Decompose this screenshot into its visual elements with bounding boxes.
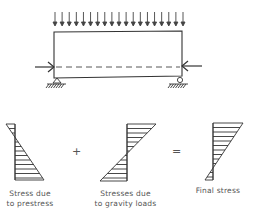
- pin-support-icon: [46, 78, 66, 88]
- distributed-load-arrows: [53, 12, 185, 26]
- label-final-line1: Final stress: [188, 186, 248, 196]
- equals-operator: =: [172, 145, 181, 158]
- stress-diagram-prestress: [6, 124, 44, 180]
- label-gravity-line2: to gravity loads: [88, 199, 163, 209]
- stress-diagram-final: [205, 123, 243, 180]
- label-gravity-line1: Stresses due: [88, 189, 163, 199]
- label-gravity: Stresses due to gravity loads: [88, 189, 163, 209]
- plus-operator: +: [72, 145, 81, 158]
- prestress-force-right-icon: [182, 61, 202, 71]
- label-prestress-line1: Stress due: [0, 189, 60, 199]
- label-prestress: Stress due to prestress: [0, 189, 60, 209]
- stress-diagram-gravity: [100, 124, 156, 181]
- label-prestress-line2: to prestress: [0, 199, 60, 209]
- prestress-force-left-icon: [35, 62, 54, 72]
- beam: [54, 31, 182, 78]
- roller-support-icon: [168, 77, 188, 88]
- label-final: Final stress: [188, 186, 248, 196]
